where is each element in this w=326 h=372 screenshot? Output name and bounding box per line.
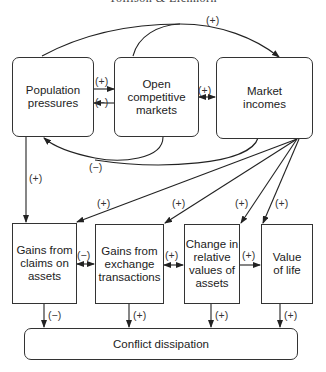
sign-label-om-to-pp: (−) bbox=[95, 97, 108, 108]
node-change-relative-values: Change in relative values of assets bbox=[184, 224, 240, 304]
edge-om-to-top-curve bbox=[133, 24, 180, 56]
node-label: Value of life bbox=[273, 251, 302, 277]
sign-label-ge-cd: (+) bbox=[133, 310, 146, 321]
edge-mi-to-cr bbox=[241, 139, 297, 223]
sign-label-gc-cd: (−) bbox=[48, 310, 61, 321]
node-conflict-dissipation: Conflict dissipation bbox=[24, 328, 298, 360]
node-gains-from-claims: Gains from claims on assets bbox=[12, 223, 77, 304]
edge-pp-to-mi bbox=[42, 24, 279, 57]
sign-label-top-curve: (+) bbox=[206, 15, 219, 26]
sign-label-om-mi: (+) bbox=[198, 85, 211, 96]
node-market-incomes: Market incomes bbox=[216, 57, 313, 139]
node-label: Population pressures bbox=[26, 84, 80, 110]
sign-label-vl-cd: (+) bbox=[284, 310, 297, 321]
sign-label-cr-cd: (+) bbox=[215, 310, 228, 321]
sign-label-pp-to-om: (+) bbox=[95, 76, 108, 87]
node-label: Market incomes bbox=[243, 85, 286, 111]
sign-label-mi-to-gc: (+) bbox=[97, 198, 110, 209]
node-value-of-life: Value of life bbox=[261, 224, 313, 304]
sign-label-mi-to-ge: (+) bbox=[172, 198, 185, 209]
node-label: Change in relative values of assets bbox=[186, 238, 238, 290]
sign-label-mi-to-cr: (+) bbox=[235, 198, 248, 209]
edge-om-lower-curve bbox=[44, 137, 163, 160]
sign-label-lower-curve: (−) bbox=[89, 162, 102, 173]
sign-label-ge-cr: (+) bbox=[165, 250, 178, 261]
node-gains-from-exchange: Gains from exchange transactions bbox=[95, 224, 164, 304]
node-label: Gains from claims on assets bbox=[16, 244, 72, 283]
node-label: Conflict dissipation bbox=[113, 338, 209, 351]
sign-label-cr-vl: (+) bbox=[242, 250, 255, 261]
node-label: Open competitive markets bbox=[127, 78, 185, 117]
sign-label-gc-ge: (−) bbox=[77, 250, 90, 261]
node-label: Gains from exchange transactions bbox=[98, 245, 160, 284]
node-population-pressures: Population pressures bbox=[12, 57, 94, 137]
sign-label-mi-to-vl: (+) bbox=[275, 198, 288, 209]
sign-label-pp-to-gc: (+) bbox=[29, 173, 42, 184]
node-open-competitive-markets: Open competitive markets bbox=[114, 57, 199, 137]
